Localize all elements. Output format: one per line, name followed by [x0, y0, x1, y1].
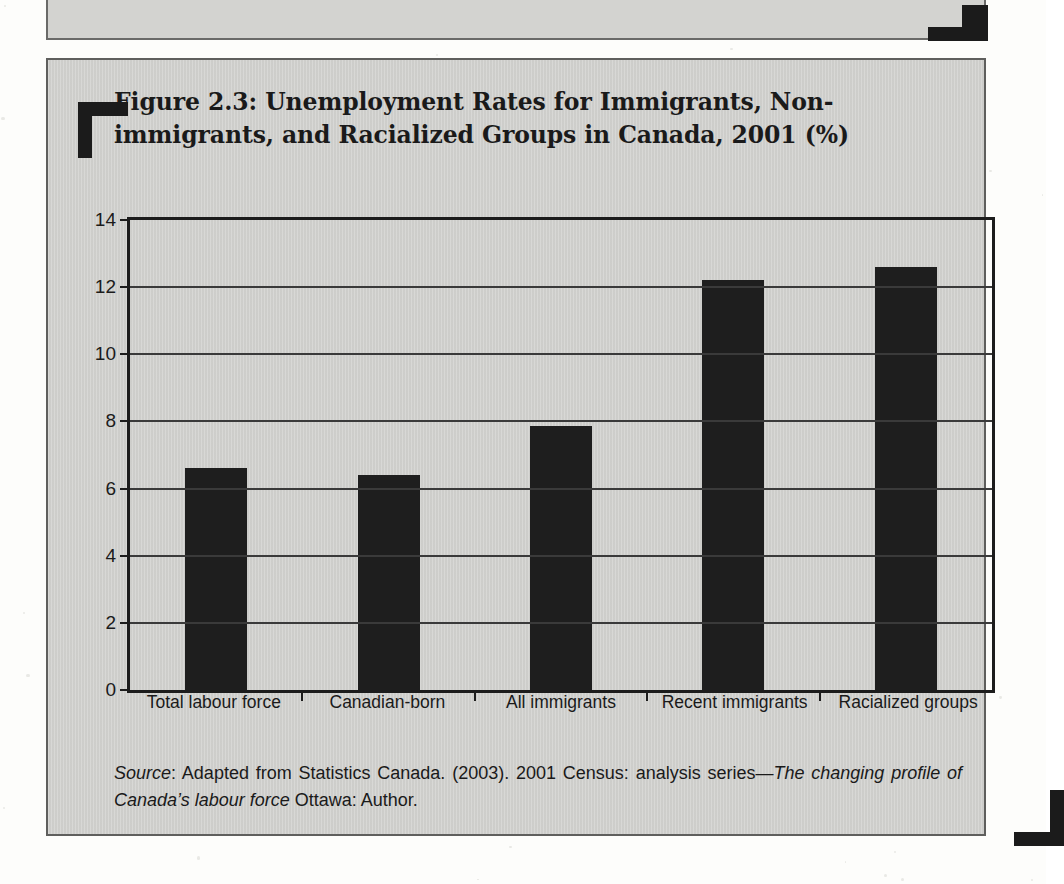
- paper-speck: [477, 879, 479, 881]
- x-axis-label-2: Canadian-born: [301, 692, 475, 732]
- y-axis-tick: [120, 555, 130, 557]
- y-axis-tick: [120, 219, 130, 221]
- bar: [185, 468, 247, 690]
- gridline: [130, 353, 992, 355]
- bar-slot: [130, 220, 302, 690]
- source-label: Source: [114, 763, 171, 783]
- paper-speck: [989, 170, 992, 173]
- gridline: [130, 622, 992, 624]
- bar-series: [130, 220, 992, 690]
- corner-bracket-bottom-right: [1014, 832, 1064, 846]
- gridline: [130, 555, 992, 557]
- paper-speck: [23, 612, 25, 614]
- paper-speck: [901, 878, 904, 881]
- bar: [358, 475, 420, 690]
- x-axis-label-5: Racialized groups: [821, 692, 995, 732]
- y-axis-tick-label: 2: [105, 612, 116, 634]
- x-axis-label-4: Recent immigrants: [648, 692, 822, 732]
- paper-speck: [730, 48, 733, 51]
- chart-plot-area: 02468101214: [127, 217, 995, 693]
- paper-speck: [884, 874, 887, 877]
- y-axis-tick-label: 12: [95, 276, 116, 298]
- source-body: : Adapted from Statistics Canada. (2003)…: [171, 763, 773, 783]
- paper-speck: [845, 861, 847, 863]
- bar: [530, 426, 592, 690]
- previous-figure-sliver: [46, 0, 986, 40]
- y-axis-tick: [120, 622, 130, 624]
- y-axis-tick-label: 4: [105, 545, 116, 567]
- paper-speck: [3, 807, 5, 809]
- bar-slot: [475, 220, 647, 690]
- y-axis-tick: [120, 353, 130, 355]
- gridline: [130, 286, 992, 288]
- paper-speck: [4, 5, 6, 7]
- y-axis-tick-label: 10: [95, 343, 116, 365]
- paper-speck: [197, 856, 200, 859]
- paper-speck: [894, 851, 896, 853]
- bar-slot: [820, 220, 992, 690]
- bar-slot: [302, 220, 474, 690]
- paper-speck: [1042, 194, 1043, 195]
- x-axis-labels: Total labour forceCanadian-bornAll immig…: [127, 692, 995, 732]
- y-axis-tick: [120, 488, 130, 490]
- paper-speck: [509, 846, 511, 848]
- figure-container: Figure 2.3: Unemployment Rates for Immig…: [46, 58, 986, 836]
- bar-slot: [647, 220, 819, 690]
- bar: [702, 280, 764, 690]
- y-axis-tick: [120, 689, 130, 691]
- y-axis-tick-label: 6: [105, 478, 116, 500]
- chart-plot-wrapper: 02468101214 Total labour forceCanadian-b…: [48, 60, 984, 834]
- gridline: [130, 420, 992, 422]
- y-axis-tick: [120, 286, 130, 288]
- y-axis-tick-label: 8: [105, 410, 116, 432]
- paper-speck: [1031, 879, 1033, 881]
- gridline: [130, 488, 992, 490]
- x-axis-label-1: Total labour force: [127, 692, 301, 732]
- previous-figure-corner-bracket: [962, 5, 988, 41]
- bar: [875, 267, 937, 690]
- paper-speck: [26, 674, 29, 677]
- x-axis-label-3: All immigrants: [474, 692, 648, 732]
- source-note: Source: Adapted from Statistics Canada. …: [114, 760, 962, 814]
- source-tail: Ottawa: Author.: [290, 790, 418, 810]
- y-axis-tick-label: 14: [95, 209, 116, 231]
- y-axis-tick-label: 0: [105, 679, 116, 701]
- paper-speck: [436, 54, 438, 56]
- paper-speck: [999, 696, 1002, 699]
- y-axis-tick: [120, 420, 130, 422]
- paper-speck: [1, 117, 4, 120]
